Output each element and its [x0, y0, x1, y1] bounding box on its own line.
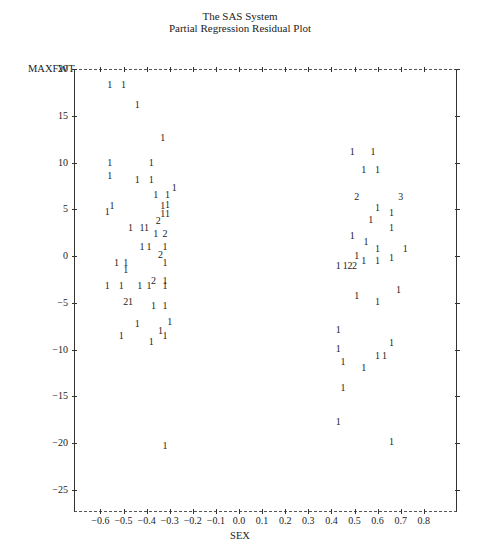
- x-tick-mark: [239, 67, 240, 72]
- data-point-symbol: 1: [389, 223, 394, 233]
- data-point-symbol: 1: [375, 256, 380, 266]
- x-tick-mark: [193, 509, 194, 514]
- y-tick-mark: [72, 163, 77, 164]
- y-tick-label: −25: [38, 485, 68, 495]
- data-point-symbol: 1: [149, 175, 154, 185]
- data-point-symbol: 2: [151, 276, 156, 286]
- y-tick-label: −20: [38, 438, 68, 448]
- x-tick-mark: [401, 509, 402, 514]
- data-point-symbol: 1: [135, 100, 140, 110]
- data-point-symbol: 1: [375, 244, 380, 254]
- x-tick-mark: [424, 67, 425, 72]
- x-tick-mark: [285, 67, 286, 72]
- y-tick-mark: [455, 256, 460, 257]
- x-tick-mark: [100, 67, 101, 72]
- chart-title: The SAS System: [0, 10, 480, 22]
- data-point-symbol: 1: [121, 80, 126, 90]
- data-point-symbol: 1: [114, 258, 119, 268]
- x-tick-mark: [262, 67, 263, 72]
- data-point-symbol: 1: [153, 190, 158, 200]
- x-tick-mark: [170, 67, 171, 72]
- data-point-symbol: 1: [375, 203, 380, 213]
- x-tick-mark: [170, 509, 171, 514]
- data-point-symbol: 1: [167, 317, 172, 327]
- x-tick-mark: [147, 509, 148, 514]
- y-tick-mark: [72, 396, 77, 397]
- y-tick-label: −5: [38, 298, 68, 308]
- y-tick-mark: [455, 69, 460, 70]
- y-tick-label: 5: [38, 204, 68, 214]
- x-tick-mark: [100, 509, 101, 514]
- data-point-symbol: 1: [163, 242, 168, 252]
- x-tick-mark: [285, 509, 286, 514]
- data-point-symbol: 2: [163, 229, 168, 239]
- data-point-symbol: 1: [382, 351, 387, 361]
- y-tick-mark: [455, 490, 460, 491]
- x-tick-mark: [378, 67, 379, 72]
- data-point-symbol: 1: [389, 338, 394, 348]
- data-point-symbol: 1: [361, 256, 366, 266]
- data-point-symbol: 1: [163, 301, 168, 311]
- x-tick-mark: [124, 509, 125, 514]
- data-point-symbol: 2: [352, 261, 357, 271]
- y-tick-label: 15: [38, 111, 68, 121]
- y-tick-mark: [455, 116, 460, 117]
- x-tick-mark: [262, 509, 263, 514]
- data-point-symbol: 1: [107, 80, 112, 90]
- y-tick-mark: [72, 209, 77, 210]
- x-tick-mark: [193, 67, 194, 72]
- x-tick-mark: [216, 509, 217, 514]
- data-point-symbol: 1: [368, 215, 373, 225]
- data-point-symbol: 1: [105, 281, 110, 291]
- x-tick-mark: [239, 509, 240, 514]
- y-tick-mark: [455, 303, 460, 304]
- y-tick-mark: [72, 490, 77, 491]
- y-tick-mark: [72, 256, 77, 257]
- data-point-symbol: 1: [146, 242, 151, 252]
- x-tick-mark: [401, 67, 402, 72]
- x-tick-mark: [378, 509, 379, 514]
- data-point-symbol: 1: [163, 281, 168, 291]
- y-tick-mark: [455, 209, 460, 210]
- data-point-symbol: 1: [340, 357, 345, 367]
- data-point-symbol: 1: [361, 363, 366, 373]
- data-point-symbol: 1: [137, 281, 142, 291]
- data-point-symbol: 3: [398, 192, 403, 202]
- y-tick-label: −10: [38, 345, 68, 355]
- data-point-symbol: 1: [350, 147, 355, 157]
- data-point-symbol: 2: [156, 216, 161, 226]
- data-point-symbol: 1: [389, 437, 394, 447]
- data-point-symbol: 1: [149, 158, 154, 168]
- data-point-symbol: 1: [172, 183, 177, 193]
- y-tick-mark: [72, 443, 77, 444]
- data-point-symbol: 1: [135, 319, 140, 329]
- data-point-symbol: 1: [163, 258, 168, 268]
- y-tick-mark: [72, 303, 77, 304]
- x-tick-mark: [355, 67, 356, 72]
- data-point-symbol: 2: [354, 192, 359, 202]
- y-tick-mark: [455, 396, 460, 397]
- data-point-symbol: 1: [350, 231, 355, 241]
- data-point-symbol: 1: [107, 171, 112, 181]
- data-point-symbol: 1: [123, 265, 128, 275]
- data-point-symbol: 1: [403, 244, 408, 254]
- x-tick-mark: [355, 509, 356, 514]
- data-point-symbol: 1: [128, 297, 133, 307]
- y-tick-mark: [72, 69, 77, 70]
- y-tick-mark: [72, 350, 77, 351]
- data-point-symbol: 1: [370, 147, 375, 157]
- x-tick-mark: [331, 67, 332, 72]
- data-point-symbol: 1: [160, 133, 165, 143]
- x-tick-label: 0.8: [409, 516, 439, 526]
- y-tick-label: 20: [38, 64, 68, 74]
- data-point-symbol: 1: [144, 223, 149, 233]
- y-tick-label: 10: [38, 158, 68, 168]
- data-point-symbol: 1: [354, 291, 359, 301]
- data-point-symbol: 1: [165, 209, 170, 219]
- data-point-symbol: 1: [107, 158, 112, 168]
- data-point-symbol: 1: [119, 281, 124, 291]
- data-point-symbol: 1: [149, 337, 154, 347]
- x-tick-mark: [331, 509, 332, 514]
- x-tick-mark: [147, 67, 148, 72]
- x-tick-mark: [124, 67, 125, 72]
